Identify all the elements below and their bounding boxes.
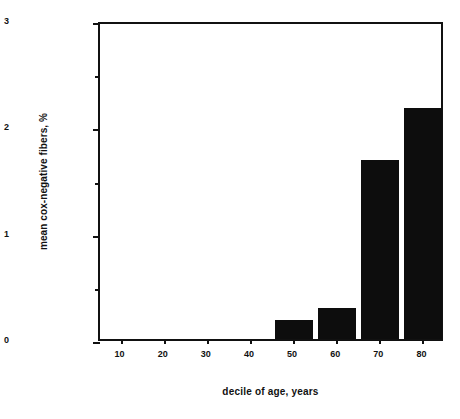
y-axis-minor-tick (95, 183, 100, 185)
y-axis-minor-tick (95, 289, 100, 291)
plot-area (98, 22, 443, 341)
bar (318, 308, 356, 339)
y-axis-title: mean cox-negative fibers, % (32, 22, 54, 341)
y-axis-tick-label: 0 (4, 336, 9, 345)
x-axis-tick-label: 10 (105, 349, 135, 359)
x-axis-tick (121, 339, 123, 344)
x-axis-tick (336, 339, 338, 344)
y-axis-tick-label: 3 (4, 17, 9, 26)
x-axis-tick (293, 339, 295, 344)
y-axis-major-tick (93, 129, 100, 131)
x-axis-tick (250, 339, 252, 344)
bar (275, 320, 313, 339)
x-axis-tick (379, 339, 381, 344)
plot-inner (100, 24, 441, 339)
y-axis-major-tick (93, 342, 100, 344)
x-axis-title: decile of age, years (98, 386, 443, 397)
bar-chart-figure: mean cox-negative fibers, % 0123 1020304… (0, 0, 460, 419)
y-axis-tick-label: 1 (4, 230, 9, 239)
x-axis-tick-label: 60 (320, 349, 350, 359)
x-axis-tick-label: 50 (277, 349, 307, 359)
y-axis-minor-tick (95, 76, 100, 78)
x-axis-tick-label: 40 (234, 349, 264, 359)
bar (404, 108, 442, 339)
bar (361, 160, 399, 339)
x-axis-tick-label: 30 (191, 349, 221, 359)
x-axis-tick (207, 339, 209, 344)
x-axis-tick-label: 70 (363, 349, 393, 359)
y-axis-major-tick (93, 236, 100, 238)
y-axis-major-tick (93, 23, 100, 25)
x-axis-tick-label: 20 (148, 349, 178, 359)
y-axis-tick-label: 2 (4, 123, 9, 132)
x-axis-tick (422, 339, 424, 344)
x-axis-tick-label: 80 (406, 349, 436, 359)
x-axis-tick (164, 339, 166, 344)
